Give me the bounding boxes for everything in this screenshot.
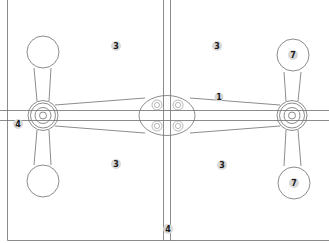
pivot-hub-right <box>277 101 307 131</box>
callout-4-bottom: 4 <box>163 224 173 234</box>
svg-text:4: 4 <box>165 225 171 234</box>
svg-text:1: 1 <box>216 93 222 102</box>
callout-1-arm: 1 <box>215 93 224 102</box>
disc-arm-top-left <box>27 36 59 101</box>
callout-3-top-left: 3 <box>111 41 121 51</box>
svg-text:7: 7 <box>291 179 297 188</box>
callout-7-bottom-right: 7 <box>289 178 299 188</box>
svg-text:3: 3 <box>113 42 119 51</box>
pivot-hub-left <box>28 101 58 131</box>
disc-arm-top-right <box>277 39 309 101</box>
disc-arm-bottom-left <box>27 130 59 197</box>
svg-text:4: 4 <box>15 120 21 129</box>
callout-3-bottom-left: 3 <box>111 159 121 169</box>
svg-text:3: 3 <box>113 160 119 169</box>
spider-main-arm <box>55 98 280 133</box>
bolt-bottom-right <box>173 121 183 131</box>
bolt-top-left <box>152 100 162 110</box>
svg-text:7: 7 <box>290 51 296 60</box>
bolt-top-right <box>173 100 183 110</box>
central-connector <box>139 96 195 136</box>
svg-text:3: 3 <box>219 161 225 170</box>
bolt-bottom-left <box>152 121 162 131</box>
disc-arm-bottom-right <box>278 130 310 199</box>
svg-text:3: 3 <box>214 42 220 51</box>
callout-4-left: 4 <box>13 119 23 129</box>
callout-7-top-right: 7 <box>288 50 298 60</box>
spider-fitting-diagram: 3 3 7 1 4 3 3 7 4 <box>0 0 329 243</box>
callout-3-bottom-right: 3 <box>217 160 227 170</box>
callout-3-top-right: 3 <box>212 41 222 51</box>
